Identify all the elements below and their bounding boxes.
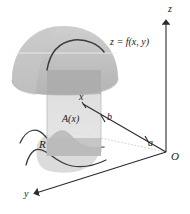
y-axis-label: y [23, 188, 29, 199]
param-a-label: a [148, 137, 153, 148]
z-axis-label: z [167, 3, 172, 14]
figure-container: z y x O a b A(x) R z = f(x, y) [0, 0, 190, 214]
param-b-label: b [107, 111, 112, 122]
surface-slab-intersection-shading [47, 70, 101, 95]
origin-label: O [171, 150, 179, 162]
region-label: R [38, 138, 46, 150]
surface-group [12, 26, 118, 95]
cross-section-area-label: A(x) [61, 113, 80, 125]
x-tick-label: x [78, 91, 84, 102]
diagram-svg: z y x O a b A(x) R z = f(x, y) [0, 0, 190, 214]
surface-equation-label: z = f(x, y) [109, 36, 150, 48]
